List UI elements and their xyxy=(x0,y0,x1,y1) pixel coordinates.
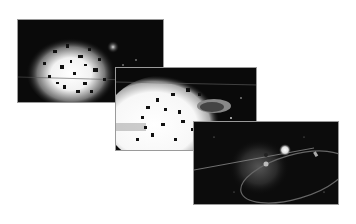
nebula-frame-3 xyxy=(193,121,339,205)
nebula-ring-image xyxy=(194,122,339,205)
